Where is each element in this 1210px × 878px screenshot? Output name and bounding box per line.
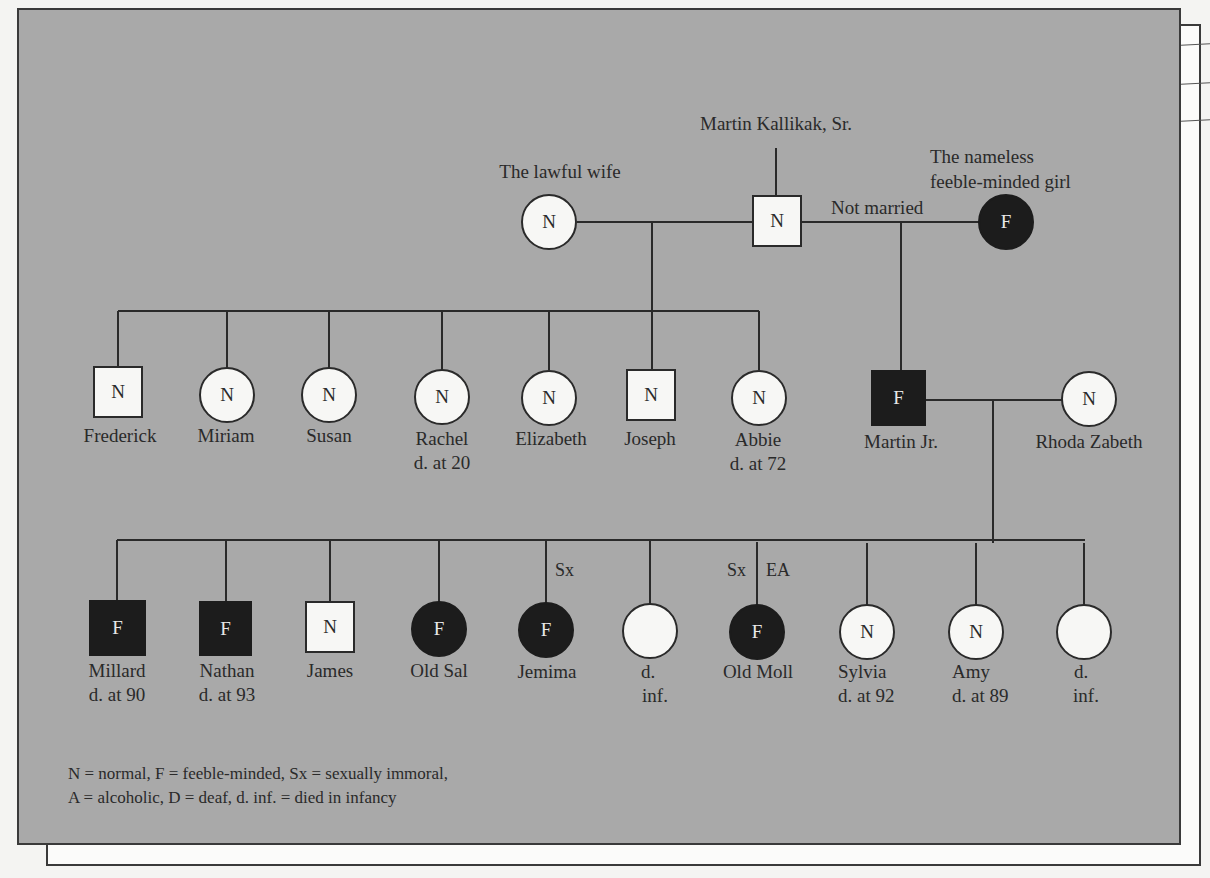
gen2-node-elizabeth: N xyxy=(521,370,577,426)
status-symbol: N xyxy=(860,621,874,643)
status-symbol: F xyxy=(434,618,445,640)
gen2-node-susan: N xyxy=(301,367,357,423)
rhoda-zabeth-name: Rhoda Zabeth xyxy=(1035,430,1142,454)
gen3-note: d. at 89 xyxy=(952,684,1008,708)
gen3-name: Nathan xyxy=(200,659,255,683)
patriarch-node: N xyxy=(752,195,802,247)
status-symbol: N xyxy=(111,381,125,403)
gen2-note: d. at 20 xyxy=(414,451,470,475)
legend: N = normal, F = feeble-minded, Sx = sexu… xyxy=(68,762,448,810)
nameless-girl-node: F xyxy=(978,194,1034,250)
gen3-name: Amy xyxy=(952,660,990,684)
gen2-name: Rachel xyxy=(416,427,469,451)
gen3-node-sylvia: N xyxy=(839,604,895,660)
status-symbol: N xyxy=(542,211,556,233)
status-symbol: F xyxy=(752,621,763,643)
status-symbol: N xyxy=(542,387,556,409)
gen3-name: Old Moll xyxy=(723,660,793,684)
status-symbol: F xyxy=(541,619,552,641)
gen3-name: James xyxy=(307,659,353,683)
not-married-label: Not married xyxy=(831,196,923,220)
status-symbol: N xyxy=(770,210,784,232)
gen2-node-miriam: N xyxy=(199,367,255,423)
status-symbol: F xyxy=(112,617,123,639)
gen3-trait-right: EA xyxy=(766,560,790,581)
martin-jr-node: F xyxy=(871,370,926,426)
gen2-name: Miriam xyxy=(198,424,255,448)
gen3-name: Jemima xyxy=(517,660,576,684)
patriarch-name: Martin Kallikak, Sr. xyxy=(700,112,852,136)
status-symbol: N xyxy=(435,386,449,408)
gen2-node-frederick: N xyxy=(93,366,143,418)
gen2-node-rachel: N xyxy=(414,369,470,425)
gen3-note: d. at 93 xyxy=(199,683,255,707)
gen3-node-jemima: F xyxy=(518,602,574,658)
gen3-node-old-moll: F xyxy=(729,604,785,660)
lawful-wife-node: N xyxy=(521,194,577,250)
gen3-name: Sylvia xyxy=(838,660,887,684)
status-symbol: F xyxy=(220,618,231,640)
gen2-name: Joseph xyxy=(624,427,676,451)
gen3-trait-right: Sx xyxy=(555,560,574,581)
status-symbol: N xyxy=(322,384,336,406)
status-symbol: F xyxy=(893,387,904,409)
gen3-node-james: N xyxy=(305,601,355,653)
gen2-name: Abbie xyxy=(735,428,781,452)
gen2-name: Frederick xyxy=(84,424,157,448)
status-symbol: N xyxy=(752,387,766,409)
status-symbol: F xyxy=(1001,211,1012,233)
gen3-name: d. xyxy=(1074,660,1088,684)
status-symbol: N xyxy=(220,384,234,406)
status-symbol: N xyxy=(1082,388,1096,410)
gen2-note: d. at 72 xyxy=(730,452,786,476)
gen2-node-joseph: N xyxy=(626,369,676,421)
legend-line2: A = alcoholic, D = deaf, d. inf. = died … xyxy=(68,786,448,810)
gen2-name: Elizabeth xyxy=(515,427,587,451)
gen3-note: d. at 92 xyxy=(838,684,894,708)
nameless-girl-name-line2: feeble-minded girl xyxy=(930,170,1071,194)
gen3-note: inf. xyxy=(642,684,668,708)
gen3-node-died-infancy xyxy=(622,603,678,659)
gen3-note: d. at 90 xyxy=(89,683,145,707)
gen2-name: Susan xyxy=(306,424,351,448)
gen3-node-millard: F xyxy=(89,600,146,656)
lawful-wife-name: The lawful wife xyxy=(499,160,620,184)
nameless-girl-name-line1: The nameless xyxy=(930,145,1034,169)
status-symbol: N xyxy=(323,616,337,638)
gen3-node-old-sal: F xyxy=(411,601,467,657)
martin-jr-name: Martin Jr. xyxy=(864,430,938,454)
gen3-name: Old Sal xyxy=(410,659,468,683)
status-symbol: N xyxy=(644,384,658,406)
gen3-name: d. xyxy=(641,660,655,684)
gen3-name: Millard xyxy=(89,659,146,683)
gen3-node-nathan: F xyxy=(199,601,252,656)
status-symbol: N xyxy=(969,621,983,643)
gen3-node-died-infancy xyxy=(1056,604,1112,660)
gen3-node-amy: N xyxy=(948,604,1004,660)
gen3-note: inf. xyxy=(1073,684,1099,708)
legend-line1: N = normal, F = feeble-minded, Sx = sexu… xyxy=(68,762,448,786)
pedigree-connector-lines xyxy=(0,0,1210,878)
rhoda-zabeth-node: N xyxy=(1061,371,1117,427)
gen3-trait-left: Sx xyxy=(727,560,746,581)
gen2-node-abbie: N xyxy=(731,370,787,426)
